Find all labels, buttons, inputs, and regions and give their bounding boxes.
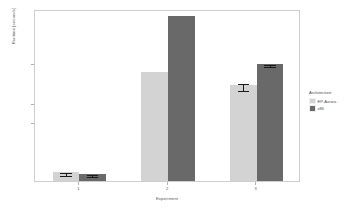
error-bar-lower-cap (60, 176, 71, 177)
plot-panel (34, 10, 300, 182)
x-axis-tick-mark (167, 182, 168, 185)
error-bar-stem (243, 84, 244, 91)
x-axis-tick-label: 1 (68, 186, 88, 191)
y-axis-title: Runtime [seconds] (9, 0, 19, 72)
plot-surface (35, 11, 299, 181)
legend-swatch-icon (309, 105, 316, 112)
x-axis-tick-mark (78, 182, 79, 185)
legend-title: Architecture (309, 90, 359, 95)
bar (141, 72, 168, 181)
error-bar-upper-cap (238, 84, 249, 85)
error-bar-upper-cap (60, 173, 71, 174)
x-axis-title: Experiment (34, 196, 300, 201)
error-bar-lower-cap (87, 177, 98, 178)
x-axis-tick-mark (255, 182, 256, 185)
error-bar-lower-cap (238, 91, 249, 92)
legend-entry-list: EP-Aurorax86 (309, 98, 359, 113)
bar (230, 85, 257, 181)
bar-chart: Runtime [seconds] 150020003000 123 Exper… (0, 0, 361, 213)
legend: Architecture EP-Aurorax86 (309, 90, 359, 113)
bar (168, 16, 195, 181)
legend-entry[interactable]: x86 (309, 105, 359, 112)
bar (257, 64, 284, 181)
error-bar-upper-cap (87, 175, 98, 176)
x-axis-tick-label: 3 (246, 186, 266, 191)
error-bar-upper-cap (264, 65, 275, 66)
legend-entry-label: x86 (318, 106, 324, 111)
legend-swatch-icon (309, 98, 316, 105)
legend-entry[interactable]: EP-Aurora (309, 98, 359, 105)
legend-entry-label: EP-Aurora (318, 99, 337, 104)
x-axis-tick-label: 2 (157, 186, 177, 191)
error-bar-lower-cap (264, 67, 275, 68)
